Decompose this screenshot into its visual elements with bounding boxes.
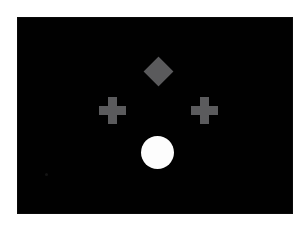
- circle-shape: [141, 136, 174, 169]
- stimulus-figure: [0, 0, 305, 233]
- plus-shape-left: [99, 97, 126, 124]
- plus-vertical-bar: [108, 97, 117, 124]
- diamond-shape: [143, 56, 173, 86]
- plus-vertical-bar: [200, 97, 209, 124]
- noise-speck: [45, 173, 48, 176]
- plus-shape-right: [191, 97, 218, 124]
- display-panel: [18, 18, 292, 213]
